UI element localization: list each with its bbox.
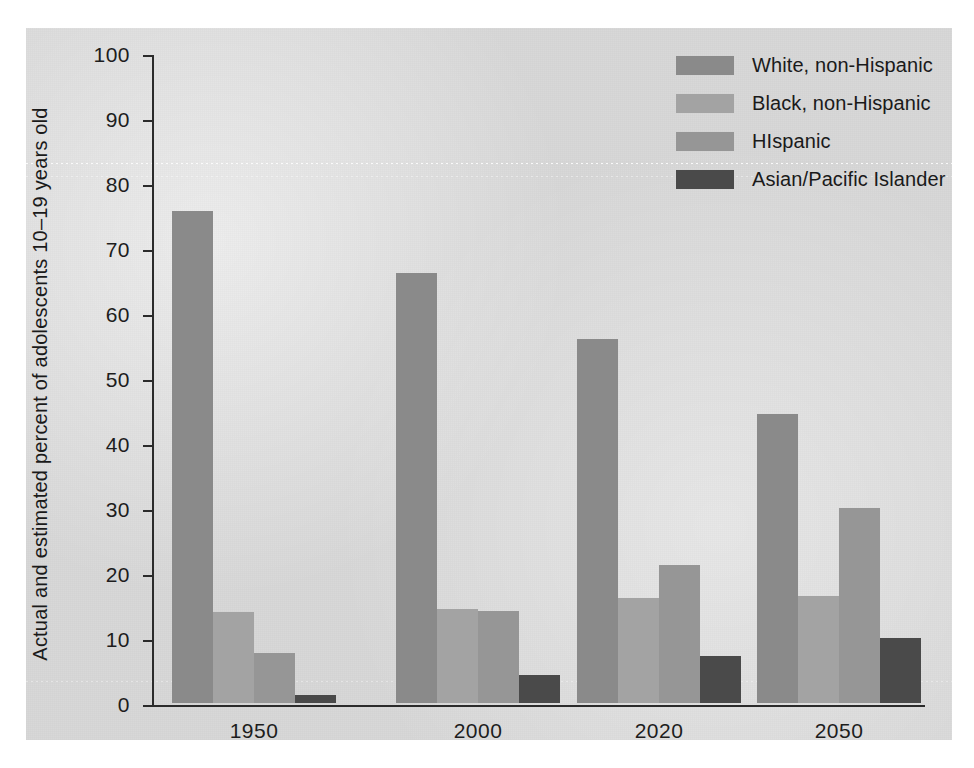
legend-label: Asian/Pacific Islander — [752, 168, 945, 191]
bar-group — [396, 53, 560, 703]
legend-swatch — [676, 56, 734, 75]
y-axis-tick — [143, 575, 152, 577]
page-margin-right — [952, 0, 974, 768]
bar-group — [172, 53, 336, 703]
legend-item: White, non-Hispanic — [676, 46, 966, 84]
legend-label: White, non-Hispanic — [752, 54, 933, 77]
y-axis-tick — [143, 120, 152, 122]
bar — [519, 675, 560, 703]
x-axis-line — [152, 705, 925, 707]
bar — [172, 211, 213, 703]
bar — [577, 339, 618, 703]
y-axis-line — [152, 55, 154, 706]
y-axis-tick — [143, 250, 152, 252]
bar — [213, 612, 254, 703]
bar — [700, 656, 741, 703]
bar — [757, 414, 798, 703]
y-axis-tick — [143, 380, 152, 382]
y-axis-title: Actual and estimated percent of adolesce… — [29, 107, 52, 660]
y-axis-tick — [143, 315, 152, 317]
y-axis-tick — [143, 445, 152, 447]
bar — [880, 638, 921, 703]
legend-label: HIspanic — [752, 130, 831, 153]
y-axis-tick-label: 10 — [106, 628, 130, 652]
y-axis-tick-label: 80 — [106, 173, 130, 197]
y-axis-tick — [143, 55, 152, 57]
y-axis-tick-label: 90 — [106, 108, 130, 132]
bar — [396, 273, 437, 703]
legend-swatch — [676, 170, 734, 189]
y-axis-tick — [143, 185, 152, 187]
bar — [798, 596, 839, 703]
bar — [437, 609, 478, 703]
y-axis-tick-label: 70 — [106, 238, 130, 262]
page-margin-left — [0, 0, 26, 768]
chart-legend: White, non-HispanicBlack, non-HispanicHI… — [676, 46, 966, 198]
y-axis-tick-label: 0 — [118, 693, 130, 717]
y-axis-tick — [143, 510, 152, 512]
legend-swatch — [676, 132, 734, 151]
legend-item: Black, non-Hispanic — [676, 84, 966, 122]
bar — [618, 598, 659, 703]
legend-swatch — [676, 94, 734, 113]
legend-label: Black, non-Hispanic — [752, 92, 931, 115]
bar — [254, 653, 295, 703]
bar — [295, 695, 336, 703]
y-axis-tick-label: 50 — [106, 368, 130, 392]
y-axis-tick-label: 40 — [106, 433, 130, 457]
y-axis-tick-label: 20 — [106, 563, 130, 587]
legend-item: HIspanic — [676, 122, 966, 160]
bar — [839, 508, 880, 703]
chart-figure: Actual and estimated percent of adolesce… — [0, 0, 974, 768]
page-margin-bottom — [0, 740, 974, 768]
y-axis-tick — [143, 640, 152, 642]
y-axis-tick-label: 30 — [106, 498, 130, 522]
y-axis-tick — [143, 705, 152, 707]
page-artifact-text — [48, 0, 168, 14]
bar — [659, 565, 700, 703]
bar — [478, 611, 519, 703]
y-axis-tick-label: 60 — [106, 303, 130, 327]
legend-item: Asian/Pacific Islander — [676, 160, 966, 198]
y-axis-tick-label: 100 — [93, 43, 130, 67]
